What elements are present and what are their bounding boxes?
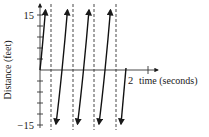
y-tick-label-neg15: −15 xyxy=(18,120,34,131)
x-axis-label: time (seconds) xyxy=(139,75,198,87)
x-tick-label-2: 2 xyxy=(128,75,133,86)
tangent-curve xyxy=(40,10,126,124)
tangent-graph: 15 −15 2 time (seconds) Distance (feet) xyxy=(0,0,209,137)
y-axis-label: Distance (feet) xyxy=(2,40,14,99)
y-tick-label-15: 15 xyxy=(24,10,35,21)
